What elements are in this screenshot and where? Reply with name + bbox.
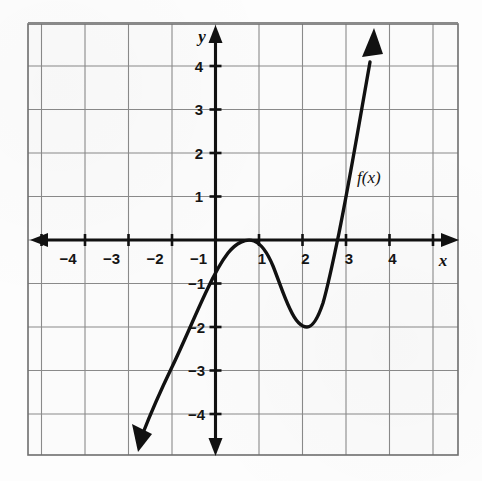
x-tick-label: −3	[103, 250, 120, 267]
coordinate-graph-figure: −4 −3 −2 −1 1 2 3 4 4 3 2 1 −1 −2 −3 −4	[0, 0, 482, 481]
x-tick-label: −2	[146, 250, 163, 267]
graph-figure-page: −4 −3 −2 −1 1 2 3 4 4 3 2 1 −1 −2 −3 −4	[0, 0, 482, 481]
x-tick-label: −1	[190, 250, 207, 267]
y-tick-label: −1	[188, 275, 205, 292]
curve-label-fx: f(x)	[357, 168, 381, 187]
x-tick-label: −4	[59, 250, 77, 267]
y-tick-label: −3	[188, 362, 205, 379]
y-tick-label: 3	[195, 101, 203, 118]
coordinate-plane-svg: −4 −3 −2 −1 1 2 3 4 4 3 2 1 −1 −2 −3 −4	[0, 0, 482, 481]
y-tick-label: 2	[195, 145, 203, 162]
y-tick-label: 4	[195, 58, 204, 75]
y-axis-label: y	[196, 27, 206, 46]
x-tick-label: 3	[345, 250, 353, 267]
y-tick-label: −4	[188, 406, 206, 423]
x-axis-label: x	[438, 251, 448, 270]
x-tick-label: 2	[301, 250, 309, 267]
x-tick-label: 4	[388, 250, 397, 267]
y-tick-label: 1	[195, 188, 203, 205]
